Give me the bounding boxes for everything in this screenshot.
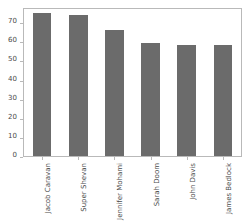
y-axis-tick-mark — [20, 119, 23, 120]
y-axis-tick-mark — [20, 100, 23, 101]
x-axis-tick-label-text: Sarah Doom — [154, 163, 161, 206]
bar[interactable] — [177, 45, 196, 156]
x-axis-tick-mark — [42, 157, 43, 160]
x-axis: Jacob CaravanSuper ShevanJennifer Mohami… — [24, 157, 241, 223]
y-axis-tick-label: 20 — [8, 114, 17, 121]
y-axis-tick-mark — [20, 157, 23, 158]
x-axis-tick-label-text: John Davis — [190, 163, 197, 200]
y-axis-tick-mark — [20, 81, 23, 82]
bar-slot — [24, 9, 60, 156]
x-axis-tick-label-text: Jennifer Mohami — [117, 163, 124, 220]
x-axis-tick-label-text: Jacob Caravan — [45, 163, 52, 213]
x-axis-tick-mark — [187, 157, 188, 160]
bar-series — [24, 9, 241, 156]
y-axis-tick-label: 40 — [8, 76, 17, 83]
y-axis-tick-label: 0 — [13, 152, 17, 159]
x-axis-tick-label-text: James Bedlock — [226, 163, 233, 214]
x-axis-tick-label: James Bedlock — [223, 163, 230, 214]
y-axis-tick-label: 60 — [8, 37, 17, 44]
y-axis-tick-label: 10 — [8, 133, 17, 140]
bar[interactable] — [141, 43, 160, 156]
y-axis-tick-mark — [20, 42, 23, 43]
y-axis-tick-label: 70 — [8, 18, 17, 25]
y-axis-tick-mark — [20, 138, 23, 139]
bar-slot — [133, 9, 169, 156]
bar[interactable] — [214, 45, 233, 156]
x-axis-tick-mark — [223, 157, 224, 160]
bar-slot — [169, 9, 205, 156]
bar-slot — [60, 9, 96, 156]
y-axis-tick-mark — [20, 23, 23, 24]
y-axis-tick-label: 50 — [8, 56, 17, 63]
y-axis-tick-label: 30 — [8, 95, 17, 102]
x-axis-tick-label: Jennifer Mohami — [114, 163, 121, 220]
bar[interactable] — [105, 30, 124, 156]
x-axis-tick-mark — [78, 157, 79, 160]
bar[interactable] — [69, 15, 88, 156]
y-axis-tick-mark — [20, 61, 23, 62]
x-axis-tick-mark — [151, 157, 152, 160]
x-axis-tick-label: John Davis — [187, 163, 194, 200]
x-axis-tick-label: Sarah Doom — [151, 163, 158, 206]
x-axis-tick-mark — [114, 157, 115, 160]
bar-slot — [205, 9, 241, 156]
bar[interactable] — [33, 13, 52, 156]
bar-chart-figure: 010203040506070 Jacob CaravanSuper Sheva… — [0, 0, 252, 223]
x-axis-tick-label: Jacob Caravan — [42, 163, 49, 213]
y-axis: 010203040506070 — [0, 8, 23, 157]
x-axis-tick-label: Super Shevan — [78, 163, 85, 212]
bar-slot — [96, 9, 132, 156]
x-axis-tick-label-text: Super Shevan — [81, 163, 88, 212]
